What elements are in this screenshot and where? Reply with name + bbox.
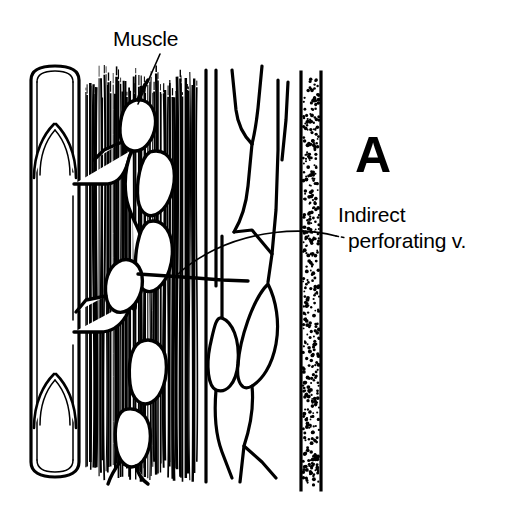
fascia-stipple-dot bbox=[310, 418, 312, 420]
fascia-stipple-dot bbox=[309, 424, 312, 427]
fascia-stipple-dot bbox=[312, 353, 315, 356]
fascia-stipple-dot bbox=[309, 184, 311, 186]
plexus-loop-6 bbox=[115, 409, 150, 467]
fascia-stipple-dot bbox=[313, 277, 316, 280]
fascia-stipple-dot bbox=[317, 269, 320, 272]
fascia-stipple-dot bbox=[317, 310, 320, 313]
fascia-stipple-dot bbox=[312, 475, 314, 477]
fascia-stipple-dot bbox=[309, 336, 312, 339]
fascia-stipple-dot bbox=[304, 177, 308, 181]
fascia-stipple-dot bbox=[302, 476, 305, 479]
fascia-stipple-dot bbox=[306, 399, 309, 402]
fascia-stipple-dot bbox=[307, 142, 311, 146]
fascia-stipple-dot bbox=[311, 401, 313, 403]
fascia-stipple-dot bbox=[305, 175, 307, 177]
fascia-stipple-dot bbox=[313, 315, 315, 317]
fascia-stipple-dot bbox=[308, 238, 311, 241]
plexus-loop-5 bbox=[129, 340, 166, 404]
fascia-stipple-dot bbox=[317, 284, 321, 288]
fascia-stipple-dot bbox=[307, 153, 309, 155]
fascia-stipple-dot bbox=[310, 120, 313, 123]
fascia-stipple-dot bbox=[312, 88, 314, 90]
fascia-stipple-dot bbox=[310, 156, 313, 159]
fascia-stipple-dot bbox=[310, 459, 312, 461]
fascia-stipple-dot bbox=[304, 393, 308, 397]
fascia-stipple-dot bbox=[303, 241, 305, 243]
fascia-stipple-dot bbox=[308, 438, 310, 440]
fascia-stipple-dot bbox=[307, 118, 309, 120]
fascia-stipple-dot bbox=[313, 425, 315, 427]
fascia-stipple-dot bbox=[311, 189, 314, 192]
fascia-stipple-dot bbox=[316, 389, 319, 392]
fascia-stipple-dot bbox=[301, 470, 305, 474]
fascia-stipple-dot bbox=[310, 465, 313, 468]
fascia-stipple-dot bbox=[316, 411, 318, 413]
fascia-stipple-dot bbox=[306, 376, 310, 380]
fascia-stipple-dot bbox=[303, 171, 305, 173]
fascia-stipple-dot bbox=[315, 371, 318, 374]
fascia-stipple-dot bbox=[311, 271, 315, 275]
fascia-stipple-dot bbox=[318, 296, 320, 298]
fascia-stipple-dot bbox=[315, 441, 318, 444]
deep-fascia bbox=[301, 72, 321, 490]
fascia-stipple-dot bbox=[304, 301, 307, 304]
fascia-stipple-dot bbox=[303, 345, 305, 347]
fascia-stipple-dot bbox=[316, 242, 320, 246]
fascia-stipple-dot bbox=[314, 108, 317, 111]
fascia-stipple-dot bbox=[307, 346, 311, 350]
fascia-stipple-dot bbox=[318, 228, 320, 230]
fascia-stipple-dot bbox=[316, 85, 318, 87]
fascia-stipple-dot bbox=[317, 216, 320, 219]
fascia-stipple-dot bbox=[313, 340, 316, 343]
fascia-stipple-dot bbox=[313, 439, 315, 441]
fascia-stipple-dot bbox=[307, 227, 311, 231]
fascia-stipple-dot bbox=[302, 323, 305, 326]
anatomical-figure: Muscle Indirect perforating v. A bbox=[0, 0, 508, 527]
fascia-stipple-dot bbox=[314, 364, 316, 366]
fascia-stipple-dot bbox=[316, 145, 320, 149]
fascia-stipple-dot bbox=[310, 114, 314, 118]
fascia-stipple-dot bbox=[311, 279, 314, 282]
fascia-stipple-dot bbox=[314, 237, 317, 240]
fascia-stipple-dot bbox=[314, 325, 317, 328]
fascia-stipple-dot bbox=[306, 89, 310, 93]
fascia-stipple-dot bbox=[318, 385, 320, 387]
fascia-stipple-dot bbox=[309, 450, 313, 454]
plexus-loop-1 bbox=[120, 100, 156, 151]
fascia-stipple-dot bbox=[317, 328, 321, 332]
fascia-stipple-dot bbox=[307, 343, 309, 345]
fascia-stipple-dot bbox=[302, 277, 305, 280]
fascia-stipple-dot bbox=[311, 404, 315, 408]
fascia-stipple-dot bbox=[307, 459, 310, 462]
fascia-stipple-dot bbox=[316, 251, 319, 254]
fascia-stipple-dot bbox=[315, 323, 317, 325]
fascia-stipple-dot bbox=[305, 425, 309, 429]
fascia-stipple-dot bbox=[304, 198, 307, 201]
fascia-stipple-dot bbox=[310, 170, 313, 173]
indirect-perforating-label-line2: perforating v. bbox=[348, 229, 466, 252]
fascia-stipple-dot bbox=[317, 223, 320, 226]
fascia-stipple-dot bbox=[308, 465, 310, 467]
fascia-stipple-dot bbox=[314, 201, 317, 204]
fascia-stipple-dot bbox=[303, 305, 305, 307]
fascia-stipple-dot bbox=[310, 270, 312, 272]
fascia-stipple-dot bbox=[318, 237, 320, 239]
fascia-stipple-dot bbox=[309, 173, 313, 177]
fascia-stipple-dot bbox=[306, 446, 309, 449]
fascia-stipple-dot bbox=[304, 340, 306, 342]
fascia-stipple-dot bbox=[306, 245, 308, 247]
fascia-stipple-dot bbox=[311, 108, 313, 110]
fascia-stipple-dot bbox=[309, 80, 312, 83]
fascia-stipple-dot bbox=[312, 373, 315, 376]
fascia-stipple-dot bbox=[308, 326, 311, 329]
fascia-stipple-dot bbox=[303, 465, 306, 468]
fascia-stipple-dot bbox=[306, 421, 310, 425]
fascia-stipple-dot bbox=[310, 131, 313, 134]
fascia-stipple-dot bbox=[309, 159, 311, 161]
fascia-stipple-dot bbox=[303, 431, 306, 434]
fascia-stipple-dot bbox=[317, 138, 319, 140]
fascia-stipple-dot bbox=[302, 251, 304, 253]
fascia-stipple-dot bbox=[317, 363, 320, 366]
fascia-stipple-dot bbox=[310, 382, 312, 384]
fascia-stipple-dot bbox=[302, 115, 305, 118]
